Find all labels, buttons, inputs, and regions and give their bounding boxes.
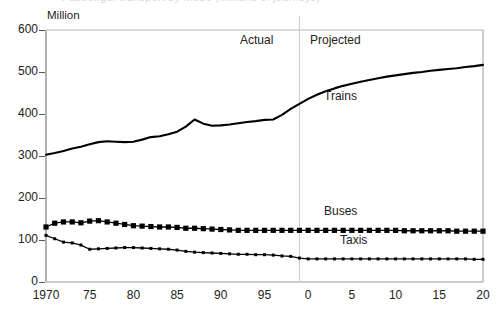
series-marker: [123, 246, 126, 249]
series-marker: [140, 224, 145, 229]
series-marker: [192, 226, 197, 231]
series-taxis: [45, 234, 485, 261]
series-marker: [473, 258, 476, 261]
series-marker: [106, 247, 109, 250]
series-marker: [315, 257, 318, 260]
plot-area: [0, 0, 504, 319]
series-marker: [333, 257, 336, 260]
series-marker: [97, 247, 100, 250]
series-marker: [184, 250, 187, 253]
series-marker: [157, 224, 162, 229]
series-label-taxis: Taxis: [340, 233, 367, 247]
series-marker: [236, 228, 241, 233]
series-marker: [131, 223, 136, 228]
series-marker: [428, 228, 433, 233]
series-marker: [480, 229, 485, 234]
series-marker: [419, 228, 424, 233]
series-marker: [289, 255, 292, 258]
series-marker: [279, 228, 284, 233]
series-marker: [429, 257, 432, 260]
series-marker: [61, 219, 66, 224]
series-marker: [167, 248, 170, 251]
series-marker: [412, 257, 415, 260]
series-marker: [114, 246, 117, 249]
series-marker: [209, 226, 214, 231]
series-marker: [385, 257, 388, 260]
series-marker: [263, 253, 266, 256]
projected-region-label: Projected: [310, 33, 361, 47]
series-marker: [420, 257, 423, 260]
series-marker: [367, 228, 372, 233]
series-marker: [79, 244, 82, 247]
series-marker: [298, 257, 301, 260]
series-marker: [482, 258, 485, 261]
chart-container: Passenger transport by mode (millions of…: [0, 0, 504, 319]
series-marker: [166, 224, 171, 229]
series-marker: [307, 257, 310, 260]
series-marker: [176, 249, 179, 252]
actual-region-label: Actual: [240, 33, 273, 47]
series-marker: [332, 228, 337, 233]
series-marker: [105, 219, 110, 224]
series-marker: [122, 222, 127, 227]
series-marker: [254, 253, 257, 256]
series-marker: [455, 257, 458, 260]
series-marker: [445, 228, 450, 233]
data-series-group: [43, 65, 485, 261]
series-marker: [43, 224, 48, 229]
series-label-buses: Buses: [324, 204, 357, 218]
series-trains: [46, 65, 483, 155]
series-marker: [288, 228, 293, 233]
series-marker: [437, 228, 442, 233]
series-marker: [403, 257, 406, 260]
series-marker: [141, 246, 144, 249]
series-marker: [280, 254, 283, 257]
series-marker: [297, 228, 302, 233]
series-marker: [87, 219, 92, 224]
series-marker: [193, 251, 196, 254]
series-marker: [244, 228, 249, 233]
series-marker: [175, 225, 180, 230]
series-marker: [227, 227, 232, 232]
series-marker: [306, 228, 311, 233]
series-marker: [158, 247, 161, 250]
series-marker: [472, 229, 477, 234]
series-marker: [132, 246, 135, 249]
series-marker: [211, 252, 214, 255]
series-marker: [342, 257, 345, 260]
series-marker: [78, 220, 83, 225]
series-marker: [253, 228, 258, 233]
series-marker: [218, 227, 223, 232]
series-marker: [70, 219, 75, 224]
series-marker: [113, 221, 118, 226]
series-marker: [368, 257, 371, 260]
series-marker: [350, 257, 353, 260]
series-marker: [45, 234, 48, 237]
series-marker: [272, 254, 275, 257]
series-marker: [393, 228, 398, 233]
series-marker: [228, 252, 231, 255]
series-marker: [262, 228, 267, 233]
series-marker: [394, 257, 397, 260]
series-line: [46, 65, 483, 155]
series-marker: [454, 229, 459, 234]
series-marker: [62, 241, 65, 244]
series-marker: [376, 228, 381, 233]
series-marker: [410, 228, 415, 233]
series-marker: [219, 252, 222, 255]
series-marker: [464, 257, 467, 260]
series-marker: [384, 228, 389, 233]
series-marker: [377, 257, 380, 260]
series-marker: [71, 241, 74, 244]
series-marker: [246, 253, 249, 256]
series-marker: [271, 228, 276, 233]
series-marker: [402, 228, 407, 233]
series-label-trains: Trains: [324, 89, 357, 103]
series-marker: [88, 248, 91, 251]
series-marker: [314, 228, 319, 233]
series-marker: [359, 257, 362, 260]
series-marker: [237, 253, 240, 256]
series-marker: [447, 257, 450, 260]
series-marker: [323, 228, 328, 233]
series-marker: [438, 257, 441, 260]
